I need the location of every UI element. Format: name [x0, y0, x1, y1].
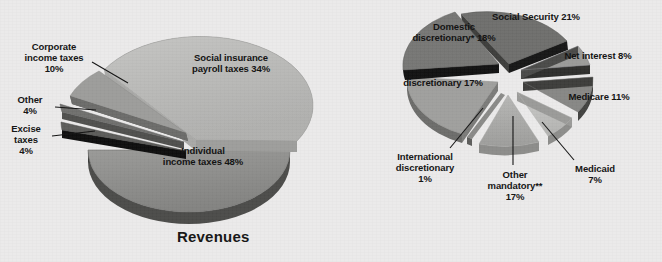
callout-other-mandatory-pct: 17% — [469, 192, 561, 203]
figure-root: Corporate income taxes 10% Other 4% Exci… — [0, 0, 662, 262]
callout-corporate-income-taxes: Corporate income taxes 10% — [8, 42, 100, 74]
label-individual-line1: Individual — [181, 145, 224, 156]
callout-medicaid-pct: 7% — [563, 175, 627, 186]
callout-other-pct: 4% — [6, 106, 54, 117]
callout-international-line2: discretionary — [396, 162, 454, 173]
label-net-interest: Net interest 8% — [555, 51, 641, 62]
label-net-interest-line1: Net interest — [564, 50, 615, 61]
callout-excise-line2: taxes — [14, 134, 38, 145]
label-social-security-line1: Social Security — [492, 11, 559, 22]
callout-international-discretionary: International discretionary 1% — [377, 152, 473, 184]
label-social-insurance-line2: payroll taxes — [192, 63, 249, 74]
callout-corporate-pct: 10% — [8, 64, 100, 75]
callout-corporate-line1: Corporate — [32, 41, 77, 52]
callout-international-line1: International — [397, 151, 453, 162]
callout-international-pct: 1% — [377, 174, 473, 185]
label-medicare: Medicare 11% — [559, 92, 639, 103]
label-social-insurance-pct: 34% — [251, 63, 270, 74]
label-defense-line2: discretionary — [403, 77, 461, 88]
callout-medicaid-line1: Medicaid — [575, 163, 615, 174]
callout-excise-line1: Excise — [11, 123, 41, 134]
callout-other-line1: Other — [18, 94, 43, 105]
chart-revenues: Corporate income taxes 10% Other 4% Exci… — [0, 0, 331, 262]
callout-excise-pct: 4% — [0, 146, 52, 157]
label-domestic-line2: discretionary* — [412, 32, 474, 43]
label-domestic-pct: 18% — [477, 32, 496, 43]
label-social-insurance-payroll-taxes: Social insurance payroll taxes 34% — [161, 53, 301, 75]
callout-medicaid: Medicaid 7% — [563, 164, 627, 186]
label-individual-pct: 48% — [224, 156, 243, 167]
label-medicare-line1: Medicare — [568, 91, 608, 102]
chart-expenses: Social Security 21% Domestic discretiona… — [331, 0, 662, 262]
callout-other-mandatory-line2: mandatory** — [488, 180, 543, 191]
label-individual-income-taxes: Individual income taxes 48% — [141, 146, 265, 168]
label-domestic-line1: Domestic — [433, 21, 475, 32]
callout-other: Other 4% — [6, 95, 54, 117]
label-defense-discretionary: Defense discretionary 17% — [390, 67, 496, 89]
label-net-interest-pct: 8% — [618, 50, 632, 61]
label-individual-line2: income taxes — [163, 156, 222, 167]
callout-excise-taxes: Excise taxes 4% — [0, 124, 52, 156]
label-defense-line1: Defense — [425, 66, 461, 77]
label-social-insurance-line1: Social insurance — [194, 52, 268, 63]
label-medicare-pct: 11% — [611, 91, 629, 102]
callout-corporate-line2: income taxes — [25, 52, 84, 63]
label-defense-pct: 17% — [464, 77, 483, 88]
label-social-security-pct: 21% — [561, 11, 580, 22]
label-domestic-discretionary: Domestic discretionary* 18% — [400, 22, 508, 44]
callout-other-mandatory-line1: Other — [503, 169, 528, 180]
callout-other-mandatory: Other mandatory** 17% — [469, 170, 561, 202]
chart-title-revenues: Revenues — [177, 228, 249, 245]
